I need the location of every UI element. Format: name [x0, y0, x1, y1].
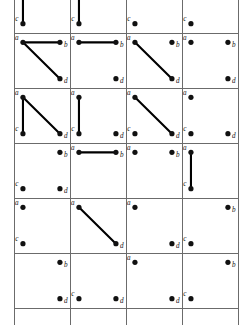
- graph-vertex-dot-d: [113, 241, 118, 246]
- graph-vertex-label-c: c: [71, 15, 75, 23]
- graph-panel: acd: [183, 89, 236, 141]
- graph-panel: acd: [15, 89, 68, 141]
- graph-panel: ad: [127, 199, 180, 251]
- graph-panel: bd: [57, 260, 68, 306]
- graph-vertex-label-d: d: [64, 132, 68, 140]
- graph-vertex-label-a: a: [15, 199, 19, 207]
- graph-vertex-dot-b: [225, 40, 230, 45]
- graph-panel: bc: [183, 260, 236, 302]
- graph-vertex-label-a: a: [15, 34, 19, 42]
- graph-vertex-label-d: d: [176, 77, 180, 85]
- graph-vertex-label-c: c: [127, 15, 131, 23]
- graph-vertex-dot-a: [132, 150, 137, 155]
- graph-edge: [23, 42, 60, 78]
- graph-vertex-dot-d: [57, 296, 62, 301]
- graph-vertex-label-d: d: [232, 132, 236, 140]
- graph-vertex-label-a: a: [183, 34, 187, 42]
- graph-vertex-label-c: c: [183, 15, 187, 23]
- graph-vertex-dot-c: [188, 296, 193, 301]
- graph-vertex-label-c: c: [183, 125, 187, 133]
- graph-panel: cd: [71, 290, 124, 305]
- graph-vertex-label-c: c: [15, 180, 19, 188]
- graph-vertex-dot-d: [225, 76, 230, 81]
- graph-vertex-dot-d: [113, 76, 118, 81]
- graph-panel: c: [127, 15, 137, 26]
- graph-vertex-dot-a: [76, 150, 81, 155]
- graph-vertex-label-d: d: [64, 77, 68, 85]
- graph-panel: abd: [127, 34, 180, 86]
- graph-vertex-dot-c: [20, 131, 25, 136]
- graph-vertex-dot-b: [57, 260, 62, 265]
- graph-vertex-dot-d: [169, 241, 174, 246]
- graph-vertex-dot-a: [188, 95, 193, 100]
- graph-vertex-dot-c: [132, 131, 137, 136]
- graph-vertex-label-c: c: [71, 290, 75, 298]
- graph-vertex-dot-c: [76, 296, 81, 301]
- graph-vertex-label-a: a: [183, 89, 187, 97]
- graph-vertex-dot-d: [169, 76, 174, 81]
- graph-vertex-label-a: a: [127, 144, 131, 152]
- graph-vertex-label-a: a: [127, 199, 131, 207]
- graph-panel: abd: [71, 34, 124, 86]
- graph-panel: bcd: [15, 150, 68, 196]
- graph-vertex-dot-b: [169, 150, 174, 155]
- graph-vertex-label-a: a: [127, 89, 131, 97]
- grid-lines: [15, 0, 239, 325]
- graph-vertex-dot-a: [188, 150, 193, 155]
- graph-vertex-label-c: c: [15, 125, 19, 133]
- graph-panels: ccccabdabdabdabdacdacdacdacdbcdababacaca…: [15, 0, 236, 305]
- graph-panel: abd: [183, 34, 236, 86]
- graph-panel: ac: [15, 199, 26, 246]
- graph-panel: acd: [71, 89, 124, 141]
- graph-grid-figure: ccccabdabdabdabdacdacdacdacdbcdababacaca…: [0, 0, 243, 325]
- graph-vertex-dot-d: [57, 131, 62, 136]
- graph-vertex-dot-c: [76, 21, 81, 26]
- graph-vertex-label-b: b: [64, 41, 68, 49]
- graph-panel: ad: [127, 254, 180, 306]
- graph-vertex-dot-d: [113, 131, 118, 136]
- graph-vertex-label-d: d: [120, 77, 124, 85]
- graph-panel: ab: [71, 144, 124, 159]
- graph-vertex-dot-c: [188, 131, 193, 136]
- graph-panel: abd: [15, 34, 68, 86]
- graph-panel: ad: [71, 199, 124, 251]
- graph-panel: ab: [127, 144, 180, 159]
- graph-panel: acd: [127, 89, 180, 141]
- graph-vertex-label-a: a: [127, 34, 131, 42]
- graph-vertex-dot-c: [76, 131, 81, 136]
- graph-vertex-dot-a: [20, 95, 25, 100]
- graph-vertex-label-c: c: [15, 15, 19, 23]
- graph-vertex-label-c: c: [127, 125, 131, 133]
- graph-vertex-dot-c: [20, 186, 25, 191]
- graph-panel: ac: [183, 144, 194, 191]
- graph-vertex-dot-d: [113, 296, 118, 301]
- graph-vertex-dot-c: [20, 241, 25, 246]
- graph-vertex-dot-a: [132, 205, 137, 210]
- graph-vertex-label-b: b: [64, 261, 68, 269]
- graph-vertex-dot-b: [113, 40, 118, 45]
- graph-vertex-label-c: c: [183, 235, 187, 243]
- graph-vertex-label-a: a: [15, 89, 19, 97]
- graph-vertex-dot-a: [20, 205, 25, 210]
- graph-vertex-label-c: c: [183, 290, 187, 298]
- graph-vertex-label-b: b: [120, 151, 124, 159]
- graph-vertex-dot-a: [76, 205, 81, 210]
- graph-vertex-dot-d: [169, 131, 174, 136]
- graph-vertex-label-a: a: [71, 89, 75, 97]
- graph-edge: [79, 207, 116, 243]
- graph-edge: [135, 42, 172, 78]
- graph-vertex-label-d: d: [176, 242, 180, 250]
- graph-vertex-label-d: d: [232, 77, 236, 85]
- graph-vertex-dot-b: [225, 205, 230, 210]
- graph-vertex-dot-a: [76, 40, 81, 45]
- graph-panel: c: [183, 15, 193, 26]
- graph-grid-canvas: ccccabdabdabdabdacdacdacdacdbcdababacaca…: [0, 0, 243, 325]
- graph-vertex-label-d: d: [120, 297, 124, 305]
- graph-vertex-dot-d: [57, 76, 62, 81]
- graph-vertex-label-a: a: [71, 199, 75, 207]
- graph-vertex-label-c: c: [71, 125, 75, 133]
- graph-vertex-label-d: d: [120, 242, 124, 250]
- graph-vertex-label-d: d: [176, 297, 180, 305]
- graph-vertex-dot-c: [188, 241, 193, 246]
- graph-vertex-label-a: a: [71, 144, 75, 152]
